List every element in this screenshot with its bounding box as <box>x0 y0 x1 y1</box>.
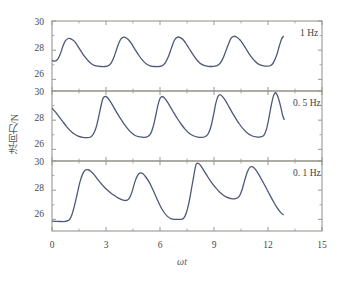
ytick-p2-26: 26 <box>22 139 44 149</box>
ytick-p3-30: 30 <box>22 157 44 167</box>
chart-figure: 法向力/N ωt 30 28 26 30 28 26 30 28 26 0 3 … <box>0 0 364 284</box>
panel-frame-0 <box>52 21 322 91</box>
panel-label-0p1hz: 0. 1 Hz <box>293 168 321 178</box>
x-axis-label: ωt <box>0 256 364 267</box>
axes-frames <box>52 21 322 231</box>
axis-ticks <box>52 21 322 231</box>
xtick-6: 6 <box>150 240 170 250</box>
ytick-p1-28: 28 <box>22 43 44 53</box>
curve-panel-0p1hz <box>52 163 283 221</box>
panel-frame-2 <box>52 161 322 231</box>
curve-panel-1hz <box>52 36 283 66</box>
panel-label-0p5hz: 0. 5 Hz <box>293 98 321 108</box>
ytick-p3-26: 26 <box>22 209 44 219</box>
curve-panel-0p5hz <box>52 93 284 138</box>
ytick-p2-28: 28 <box>22 113 44 123</box>
data-curves <box>52 36 284 221</box>
panel-frame-1 <box>52 91 322 161</box>
xtick-3: 3 <box>96 240 116 250</box>
panel-label-1hz: 1 Hz <box>300 28 318 38</box>
y-axis-label: 法向力/N <box>2 82 26 186</box>
ytick-p1-26: 26 <box>22 69 44 79</box>
ytick-p1-30: 30 <box>22 17 44 27</box>
xtick-15: 15 <box>312 240 332 250</box>
xtick-0: 0 <box>42 240 62 250</box>
ytick-p2-30: 30 <box>22 87 44 97</box>
ytick-p3-28: 28 <box>22 183 44 193</box>
xtick-9: 9 <box>204 240 224 250</box>
xtick-12: 12 <box>258 240 278 250</box>
